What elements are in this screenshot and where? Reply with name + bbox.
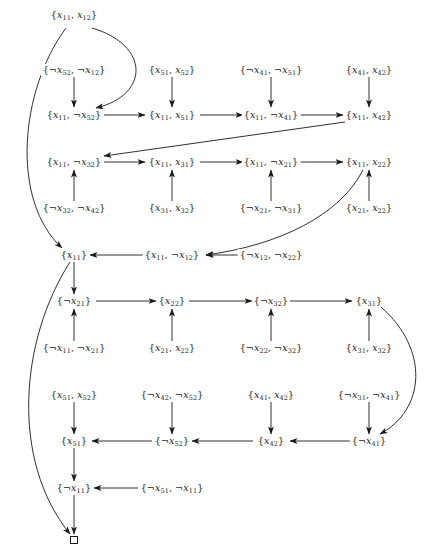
clause-node: {¬x32, ¬x42}: [41, 202, 108, 214]
clause-node: {x51, x52}: [147, 64, 197, 76]
clause-node: {x11, x42}: [344, 109, 394, 121]
clause-node: {¬x21, ¬x31}: [238, 202, 305, 214]
clause-node: {¬x51, ¬x11}: [139, 482, 206, 494]
edge-n9-n10: [104, 122, 345, 156]
clause-node: {x11, x12}: [49, 9, 99, 21]
clause-node: {x11, ¬x21}: [242, 156, 301, 168]
clause-node: {¬x41}: [350, 435, 388, 447]
clause-node: {¬x11}: [55, 482, 93, 494]
clause-node: {x11, ¬x12}: [143, 249, 202, 261]
clause-node: {x31, x32}: [344, 342, 394, 354]
clause-node: {x11, x31}: [147, 156, 197, 168]
clause-node: {x31}: [354, 295, 384, 307]
clause-node: {¬x12, ¬x22}: [238, 249, 305, 261]
clause-node: {x51, x52}: [49, 389, 99, 401]
clause-node: {x11, x51}: [147, 109, 197, 121]
edge-layer: [0, 0, 429, 553]
clause-node: {x41, x42}: [344, 64, 394, 76]
clause-node: {¬x31, ¬x41}: [336, 389, 403, 401]
clause-node: {¬x52, ¬x12}: [41, 64, 108, 76]
clause-node: {x41, x42}: [246, 389, 296, 401]
clause-node: {x11, x22}: [344, 156, 394, 168]
clause-node: {x42}: [256, 435, 286, 447]
clause-node: {x11, ¬x41}: [242, 109, 301, 121]
clause-node: {x21, x22}: [344, 202, 394, 214]
clause-node: {¬x21}: [55, 295, 93, 307]
clause-node: {x31, x32}: [147, 202, 197, 214]
edge-n24-n36: [380, 307, 416, 434]
empty-clause-node: [70, 536, 78, 544]
clause-node: {¬x52}: [153, 435, 191, 447]
clause-node: {x51}: [59, 435, 89, 447]
clause-node: {¬x22, ¬x32}: [238, 342, 305, 354]
clause-node: {x22}: [157, 295, 187, 307]
clause-node: {¬x41, ¬x51}: [238, 64, 305, 76]
clause-node: {x11, ¬x32}: [45, 156, 104, 168]
clause-node: {¬x11, ¬x21}: [41, 342, 108, 354]
clause-node: {x11, ¬x52}: [45, 109, 104, 121]
clause-node: {¬x42, ¬x52}: [139, 389, 206, 401]
clause-node: {¬x32}: [252, 295, 290, 307]
clause-node: {x21, x22}: [147, 342, 197, 354]
clause-node: {x11}: [59, 249, 89, 261]
edge-n1-n18: [27, 28, 66, 248]
